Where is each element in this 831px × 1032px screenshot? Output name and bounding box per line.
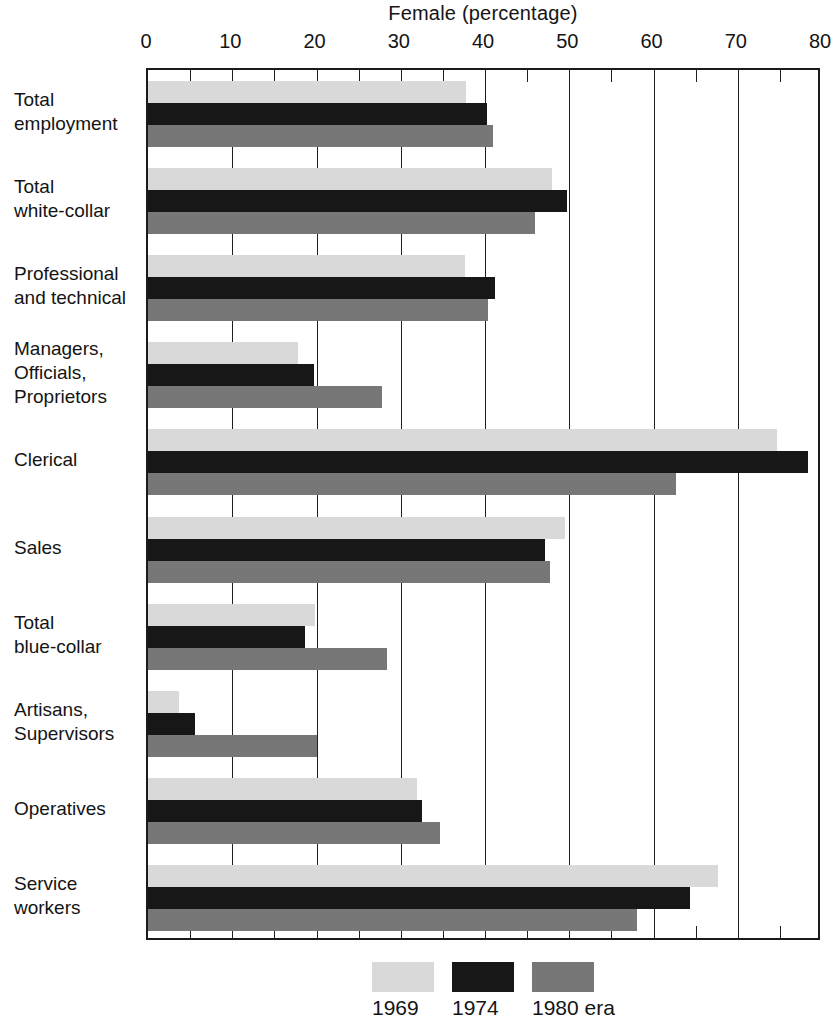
bar	[148, 604, 315, 626]
bar	[148, 429, 777, 451]
bar	[148, 865, 718, 887]
bar	[148, 648, 387, 670]
bar	[148, 517, 565, 539]
category-label-line: employment	[14, 112, 140, 136]
category-label-line: Service	[14, 872, 140, 896]
bar-group	[148, 70, 818, 157]
x-tick-label-30: 30	[388, 30, 410, 53]
plot-area	[146, 68, 820, 940]
category-label: Totalemployment	[14, 88, 140, 136]
x-tick-label-50: 50	[556, 30, 578, 53]
category-label-line: Supervisors	[14, 722, 140, 746]
bar-group	[148, 506, 818, 593]
category-label: Totalblue-collar	[14, 611, 140, 659]
category-label-line: Clerical	[14, 448, 140, 472]
legend-swatch-1974	[452, 962, 514, 992]
category-label-line: Officials,	[14, 361, 140, 385]
category-label: Serviceworkers	[14, 872, 140, 920]
category-label: Totalwhite-collar	[14, 175, 140, 223]
category-label-line: Artisans,	[14, 698, 140, 722]
x-tick-label-70: 70	[725, 30, 747, 53]
category-label-line: and technical	[14, 286, 140, 310]
legend: 1969 1974 1980 era	[0, 962, 828, 1032]
bar	[148, 822, 440, 844]
bar	[148, 561, 550, 583]
bar	[148, 277, 495, 299]
x-tick-label-20: 20	[303, 30, 325, 53]
bar-group	[148, 593, 818, 680]
x-tick-label-80: 80	[809, 30, 831, 53]
x-tick-label-40: 40	[472, 30, 494, 53]
legend-item-1980: 1980 era	[532, 962, 615, 1020]
category-label-line: Proprietors	[14, 385, 140, 409]
bar	[148, 691, 179, 713]
bar-group	[148, 768, 818, 855]
bar	[148, 255, 465, 277]
category-label: Operatives	[14, 797, 140, 821]
x-tick-label-60: 60	[640, 30, 662, 53]
category-label: Professionaland technical	[14, 262, 140, 310]
category-label-line: workers	[14, 896, 140, 920]
category-label: Sales	[14, 536, 140, 560]
legend-label-1974: 1974	[452, 996, 514, 1020]
legend-item-1969: 1969	[372, 962, 434, 1020]
legend-label-1980: 1980 era	[532, 996, 615, 1020]
x-tick-label-0: 0	[140, 30, 151, 53]
legend-swatch-1969	[372, 962, 434, 992]
category-label: Clerical	[14, 448, 140, 472]
bar	[148, 887, 690, 909]
legend-swatch-1980	[532, 962, 594, 992]
category-label-line: Managers,	[14, 337, 140, 361]
bar-group	[148, 680, 818, 767]
bar	[148, 299, 488, 321]
bar-group	[148, 855, 818, 942]
bar	[148, 364, 314, 386]
bar	[148, 473, 676, 495]
bar	[148, 778, 417, 800]
category-label-line: white-collar	[14, 199, 140, 223]
category-label-line: Total	[14, 175, 140, 199]
category-label-line: Sales	[14, 536, 140, 560]
bar	[148, 342, 298, 364]
bar-group	[148, 419, 818, 506]
bar	[148, 735, 317, 757]
bar	[148, 713, 195, 735]
bar	[148, 909, 637, 931]
x-axis-tick-labels: 01020304050607080	[0, 30, 828, 58]
bar	[148, 190, 567, 212]
legend-label-1969: 1969	[372, 996, 434, 1020]
bar	[148, 626, 305, 648]
bar	[148, 451, 808, 473]
category-label-line: blue-collar	[14, 635, 140, 659]
chart-title: Female (percentage)	[146, 2, 820, 25]
legend-item-1974: 1974	[452, 962, 514, 1020]
bar	[148, 168, 552, 190]
bar-group	[148, 332, 818, 419]
bar	[148, 103, 487, 125]
category-axis-labels: TotalemploymentTotalwhite-collarProfessi…	[0, 68, 140, 940]
category-label-line: Total	[14, 88, 140, 112]
x-tick-label-10: 10	[219, 30, 241, 53]
bar-group	[148, 157, 818, 244]
category-label: Artisans,Supervisors	[14, 698, 140, 746]
bar	[148, 539, 545, 561]
category-label: Managers,Officials,Proprietors	[14, 337, 140, 409]
bar	[148, 125, 493, 147]
bar-group	[148, 244, 818, 331]
bar	[148, 386, 382, 408]
bar	[148, 800, 422, 822]
bar	[148, 81, 466, 103]
bar	[148, 212, 535, 234]
category-label-line: Operatives	[14, 797, 140, 821]
category-label-line: Total	[14, 611, 140, 635]
category-label-line: Professional	[14, 262, 140, 286]
